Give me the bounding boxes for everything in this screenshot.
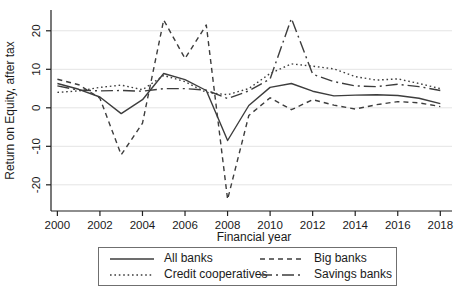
x-tick-label: 2002 <box>87 219 113 231</box>
y-tick-label: 10 <box>30 63 42 76</box>
legend-item-all-banks: All banks <box>109 251 259 266</box>
x-tick-label: 2014 <box>342 219 368 231</box>
big-banks-line-sample-icon <box>259 254 305 264</box>
series-line-credit-cooperatives <box>57 64 440 95</box>
y-tick-label: -20 <box>30 177 42 194</box>
x-tick-label: 2016 <box>385 219 411 231</box>
legend-label-credit-cooperatives: Credit cooperatives <box>164 267 267 282</box>
x-tick-label: 2012 <box>300 219 326 231</box>
legend-label-savings-banks: Savings banks <box>314 267 392 282</box>
chart-svg: -20-100102020002002200420062008201020122… <box>0 0 467 244</box>
x-axis-title: Financial year <box>217 230 292 244</box>
all-banks-line-sample-icon <box>109 254 155 264</box>
legend-item-savings-banks: Savings banks <box>259 267 392 282</box>
legend-label-all-banks: All banks <box>164 251 213 266</box>
series-line-all-banks <box>57 74 440 141</box>
y-tick-label: -10 <box>30 138 42 155</box>
legend-label-big-banks: Big banks <box>314 251 367 266</box>
roe-line-chart: -20-100102020002002200420062008201020122… <box>0 0 467 295</box>
legend-item-credit-cooperatives: Credit cooperatives <box>109 267 259 282</box>
x-tick-label: 2000 <box>45 219 71 231</box>
x-tick-label: 2006 <box>172 219 198 231</box>
series-line-big-banks <box>57 20 440 199</box>
y-axis-title: Return on Equity, after tax <box>3 41 17 180</box>
credit-cooperatives-line-sample-icon <box>109 270 155 280</box>
chart-generated: -20-100102020002002200420062008201020122… <box>30 10 453 231</box>
y-tick-label: 0 <box>30 105 42 111</box>
savings-banks-line-sample-icon <box>259 270 305 280</box>
chart-legend: All banks Big banks Credit cooperatives … <box>98 247 397 286</box>
legend-item-big-banks: Big banks <box>259 251 392 266</box>
y-tick-label: 20 <box>30 24 42 37</box>
x-tick-label: 2004 <box>130 219 156 231</box>
x-tick-label: 2018 <box>428 219 454 231</box>
